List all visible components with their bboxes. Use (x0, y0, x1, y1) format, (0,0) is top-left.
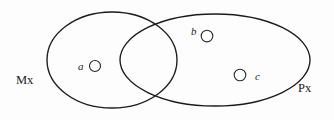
member-a-label: a (78, 60, 84, 72)
right-set-label: Px (298, 81, 312, 95)
member-c-dot-icon (234, 69, 246, 81)
member-c-label: c (255, 70, 260, 82)
left-set-ellipse (47, 12, 177, 108)
right-set-ellipse (120, 14, 310, 106)
left-set-label: Mx (16, 73, 34, 87)
venn-diagram-graphic: Mx Px a b c (0, 0, 334, 120)
member-a-dot-icon (90, 61, 101, 72)
member-b-label: b (191, 25, 197, 37)
venn-diagram-canvas: Mx Px a b c (0, 0, 334, 120)
member-b-dot-icon (201, 30, 213, 42)
